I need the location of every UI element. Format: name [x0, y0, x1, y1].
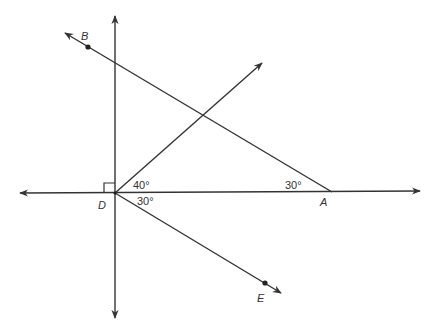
- geometry-diagram: B D A E 40° 30° 30°: [0, 0, 439, 336]
- angle-label-30-at-a: 30°: [285, 179, 302, 191]
- line-ab: [65, 33, 332, 192]
- horizontal-line: [20, 191, 420, 193]
- label-e: E: [257, 292, 265, 304]
- angle-label-30-lower: 30°: [137, 195, 154, 207]
- point-e: [262, 280, 267, 285]
- right-angle-marker: [104, 183, 115, 193]
- ray-de: [115, 193, 281, 293]
- label-d: D: [98, 199, 106, 211]
- ray-d-upper: [115, 63, 262, 193]
- point-d: [113, 191, 116, 194]
- point-b: [85, 44, 90, 49]
- angle-label-40: 40°: [133, 179, 150, 191]
- label-b: B: [81, 30, 88, 42]
- label-a: A: [319, 196, 327, 208]
